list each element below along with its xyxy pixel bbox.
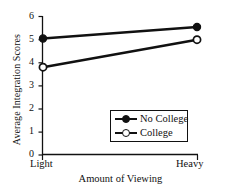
point-college-heavy: [193, 36, 200, 43]
legend-label-no-college: No College: [137, 113, 188, 125]
point-no-college-heavy: [193, 23, 200, 30]
point-no-college-light: [39, 35, 46, 42]
y-axis-title: Average Integration Scores: [11, 20, 22, 160]
filled-circle-icon: [115, 113, 137, 125]
x-tick-label-light: Light: [30, 158, 53, 169]
series-college-line: [43, 40, 197, 67]
legend: No College College: [110, 110, 188, 142]
series-no-college-line: [43, 27, 197, 39]
line-chart: 6 5 4 3 2 1 0 Average Integration Scores…: [0, 0, 225, 191]
x-axis-title: Amount of Viewing: [42, 173, 199, 184]
legend-label-college: College: [137, 127, 173, 139]
point-college-light: [39, 64, 46, 71]
x-tick-label-heavy: Heavy: [176, 158, 203, 169]
open-circle-icon: [115, 127, 137, 139]
legend-item-college: College: [115, 126, 173, 140]
legend-item-no-college: No College: [115, 112, 188, 126]
